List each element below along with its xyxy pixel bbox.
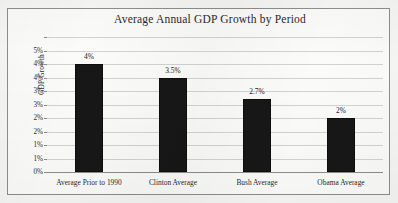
bar-value-label: 2.7% bbox=[249, 87, 264, 96]
y-axis-tick-label: 5% bbox=[33, 47, 43, 55]
y-axis-tick-mark bbox=[44, 91, 47, 92]
gridline bbox=[47, 51, 383, 52]
x-axis-category-label: Average Prior to 1990 bbox=[56, 178, 121, 187]
y-axis-tick-label: 1% bbox=[33, 155, 43, 163]
y-axis-tick-mark bbox=[44, 118, 47, 119]
bar-value-label: 3.5% bbox=[165, 66, 180, 75]
y-axis-tick-mark bbox=[44, 132, 47, 133]
x-axis-line bbox=[47, 172, 383, 173]
y-axis-tick-mark bbox=[44, 51, 47, 52]
y-axis-tick-label: 4% bbox=[33, 60, 43, 68]
y-axis-tick-mark bbox=[44, 159, 47, 160]
y-axis-tick-mark bbox=[44, 78, 47, 79]
chart-screenshot: Average Annual GDP Growth by Period GDP … bbox=[0, 0, 398, 203]
bar bbox=[327, 118, 355, 172]
gridline bbox=[47, 37, 383, 38]
y-axis-tick-label: 2% bbox=[33, 114, 43, 122]
bar-value-label: 2% bbox=[336, 106, 346, 115]
bar bbox=[243, 99, 271, 172]
y-axis-tick-label: 3% bbox=[33, 87, 43, 95]
x-axis-category-label: Obama Average bbox=[317, 178, 364, 187]
y-axis-tick-label: 1% bbox=[33, 141, 43, 149]
y-axis-tick-label: 2% bbox=[33, 128, 43, 136]
plot-area: 0%1%1%2%2%3%3%4%4%5% 4%3.5%2.7%2% Averag… bbox=[47, 37, 383, 172]
y-axis-tick-label: 0% bbox=[33, 168, 43, 176]
x-axis-category-label: Bush Average bbox=[236, 178, 277, 187]
y-axis-tick-mark bbox=[44, 64, 47, 65]
y-axis-tick-mark bbox=[44, 105, 47, 106]
bar-value-label: 4% bbox=[84, 52, 94, 61]
bar bbox=[75, 64, 103, 172]
y-axis-tick-label: 4% bbox=[33, 74, 43, 82]
y-axis-tick-mark bbox=[44, 145, 47, 146]
x-axis-category-label: Clinton Average bbox=[149, 178, 197, 187]
y-axis-tick-mark bbox=[44, 37, 47, 38]
bar bbox=[159, 78, 187, 173]
chart-title: Average Annual GDP Growth by Period bbox=[40, 13, 380, 25]
y-axis-tick-mark bbox=[44, 172, 47, 173]
y-axis-tick-label: 3% bbox=[33, 101, 43, 109]
